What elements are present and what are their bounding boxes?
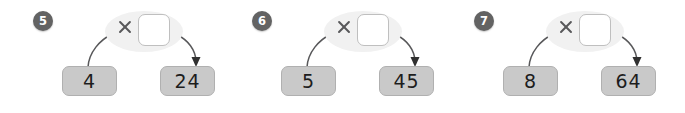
multiply-icon: [335, 19, 352, 36]
problem-group: 7 8 64: [441, 0, 669, 113]
factor-input-blank[interactable]: [357, 14, 389, 46]
input-value-box: 5: [281, 66, 336, 96]
problem-group: 6 5 45: [219, 0, 447, 113]
problem-group: 5 4 24: [0, 0, 228, 113]
worksheet-canvas: 5 4 24 6 5 45 7: [0, 0, 685, 113]
factor-input-blank[interactable]: [579, 14, 611, 46]
multiply-icon: [116, 19, 133, 36]
input-value-box: 8: [503, 66, 558, 96]
multiply-icon: [557, 19, 574, 36]
output-value-box: 64: [601, 66, 656, 96]
input-value-box: 4: [62, 66, 117, 96]
factor-input-blank[interactable]: [138, 14, 170, 46]
output-value-box: 24: [160, 66, 215, 96]
output-value-box: 45: [379, 66, 434, 96]
